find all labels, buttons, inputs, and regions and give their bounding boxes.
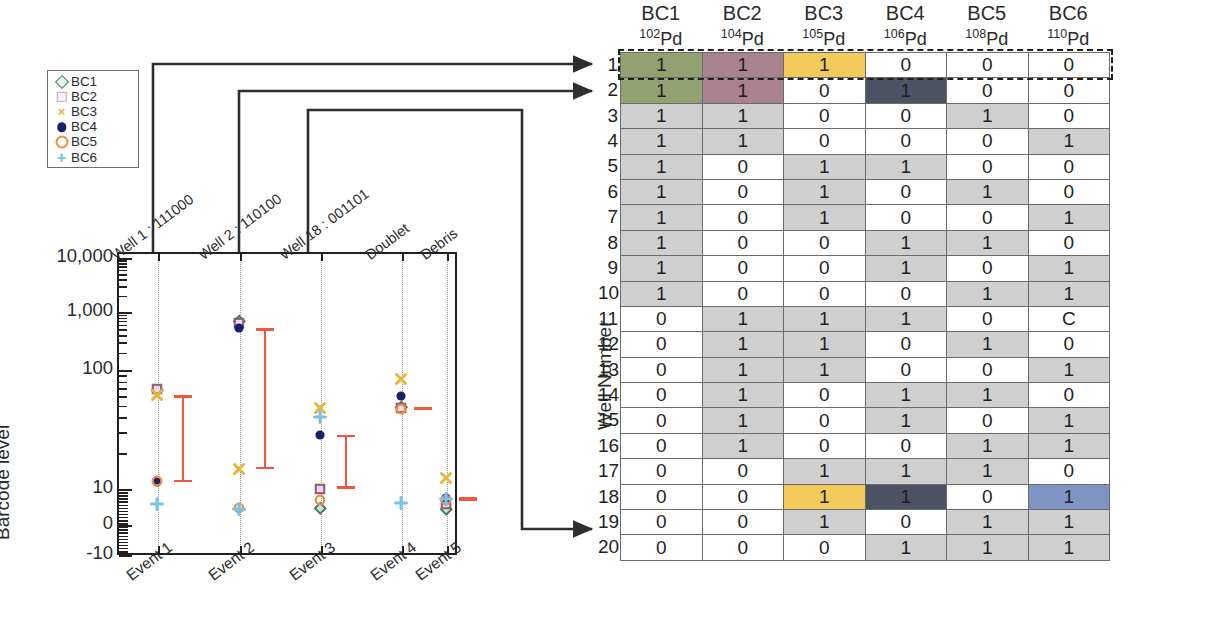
legend-label: BC3 [71, 105, 97, 119]
column-header-bc-label: BC5 [946, 2, 1028, 24]
errorbar-event-4 [414, 407, 432, 410]
isotope-element: Pd [660, 29, 682, 49]
y-tick [119, 318, 127, 320]
cell-r19-bc4: 0 [865, 510, 947, 535]
table-row: 110010 [621, 103, 1110, 128]
datapoint-bc5-event-1 [150, 473, 165, 488]
errorbar-event-3 [337, 435, 355, 489]
isotope-element: Pd [905, 29, 927, 49]
cell-r12-bc6: 0 [1028, 332, 1110, 357]
cell-r16-bc2: 1 [702, 433, 784, 458]
cell-r7-bc4: 0 [865, 205, 947, 230]
cell-r19-bc3: 1 [784, 510, 866, 535]
row-label-14: 14 [598, 384, 618, 406]
cell-r15-bc5: 0 [947, 408, 1029, 433]
row-label-10: 10 [598, 282, 618, 304]
cell-r3-bc5: 1 [947, 103, 1029, 128]
errorbar-cap-bottom [414, 408, 432, 410]
y-tick [119, 532, 128, 534]
cell-r12-bc1: 0 [621, 332, 703, 357]
cell-r7-bc1: 1 [621, 205, 703, 230]
y-tick [119, 554, 128, 556]
cell-r17-bc4: 1 [865, 459, 947, 484]
cell-r14-bc5: 1 [947, 383, 1029, 408]
y-tick [119, 417, 127, 419]
row-label-11: 11 [598, 308, 618, 330]
cell-r9-bc1: 1 [621, 256, 703, 281]
cell-r12-bc2: 1 [702, 332, 784, 357]
y-tick [119, 353, 127, 355]
cell-r5-bc5: 0 [947, 154, 1029, 179]
errorbar-stem [264, 328, 266, 469]
column-header-bc2: BC2104Pd [702, 2, 784, 50]
y-tick-label: 10 [0, 476, 113, 498]
cell-r8-bc2: 0 [702, 230, 784, 255]
cell-r4-bc5: 0 [947, 129, 1029, 154]
legend-item-bc4: BC4 [53, 120, 134, 135]
y-tick [119, 296, 127, 298]
cell-r10-bc1: 1 [621, 281, 703, 306]
column-header-bc5: BC5108Pd [946, 2, 1028, 50]
row-label-15: 15 [598, 409, 618, 431]
filled-circle-marker [53, 120, 70, 134]
cell-r3-bc1: 1 [621, 103, 703, 128]
y-tick [119, 335, 127, 337]
isotope-mass: 105 [802, 27, 823, 41]
y-tick [119, 545, 128, 547]
isotope-mass: 110 [1047, 27, 1067, 41]
column-header-isotope: 108Pd [946, 24, 1028, 50]
y-tick [119, 329, 127, 331]
row-label-5: 5 [598, 155, 618, 177]
table-row: 110001 [621, 129, 1110, 154]
plus-marker: + [53, 151, 70, 165]
cell-r18-bc1: 0 [621, 484, 703, 509]
y-tick [119, 536, 128, 538]
y-tick [119, 406, 127, 408]
y-tick [119, 279, 127, 281]
cell-r20-bc6: 1 [1028, 535, 1110, 560]
cell-r3-bc2: 1 [702, 103, 784, 128]
legend-label: BC4 [71, 120, 97, 134]
y-tick [119, 514, 128, 516]
y-tick-label: 0 [0, 512, 113, 534]
column-header-bc-label: BC2 [702, 2, 784, 24]
cell-r8-bc6: 0 [1028, 230, 1110, 255]
column-header-bc3: BC3105Pd [783, 2, 865, 50]
x-marker: × [53, 105, 70, 119]
y-tick [119, 432, 127, 434]
cell-r5-bc3: 1 [784, 154, 866, 179]
cell-r16-bc6: 1 [1028, 433, 1110, 458]
table-row: 010011 [621, 433, 1110, 458]
table-row: 100011 [621, 281, 1110, 306]
isotope-mass: 102 [639, 27, 660, 41]
table-row: 001101 [621, 484, 1110, 509]
datapoint-bc6-event-1 [150, 497, 165, 512]
row-label-7: 7 [598, 206, 618, 228]
errorbar-event-2 [256, 328, 274, 469]
cell-r9-bc4: 1 [865, 256, 947, 281]
cell-r20-bc1: 0 [621, 535, 703, 560]
barcode-key-table-panel: Well Number 1234567891011121314151617181… [600, 0, 1217, 642]
errorbar-event-5 [459, 497, 477, 501]
isotope-mass: 106 [884, 27, 905, 41]
legend-item-bc3: ×BC3 [53, 104, 134, 119]
y-tick [119, 325, 127, 327]
table-row: 100110 [621, 230, 1110, 255]
cell-r10-bc6: 1 [1028, 281, 1110, 306]
table-row: 011001 [621, 357, 1110, 382]
errorbar-cap-bottom [459, 499, 477, 501]
legend-item-bc6: +BC6 [53, 150, 134, 165]
row-label-16: 16 [598, 435, 618, 457]
series-legend: BC1BC2×BC3BC4BC5+BC6 [47, 70, 139, 168]
diamond-marker [53, 75, 70, 89]
cell-r20-bc4: 1 [865, 535, 947, 560]
cell-r6-bc6: 0 [1028, 179, 1110, 204]
legend-label: BC6 [71, 151, 97, 165]
datapoint-bc3-event-1 [150, 388, 165, 403]
y-tick [119, 495, 128, 497]
cell-r13-bc4: 0 [865, 357, 947, 382]
y-tick [119, 517, 128, 519]
y-tick [119, 511, 128, 513]
cell-r6-bc5: 1 [947, 179, 1029, 204]
row-label-19: 19 [598, 511, 618, 533]
